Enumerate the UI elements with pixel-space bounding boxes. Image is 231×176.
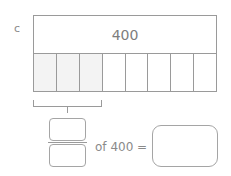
bracket-tick (67, 107, 68, 113)
answer-input[interactable] (152, 125, 218, 167)
equation-text: of 400 = (95, 140, 147, 154)
denominator-input[interactable] (49, 144, 86, 167)
bar-part (80, 54, 103, 91)
bar-part (126, 54, 149, 91)
numerator-input[interactable] (49, 118, 86, 141)
bar-part (34, 54, 57, 91)
bracket (33, 100, 102, 107)
fraction-line (48, 142, 87, 143)
bar-part (148, 54, 171, 91)
bar-part (103, 54, 126, 91)
bar-part (57, 54, 80, 91)
question-label: c (14, 22, 20, 35)
bar-whole: 400 (34, 16, 216, 54)
bar-parts (34, 54, 216, 91)
bar-model: 400 (33, 15, 217, 92)
bar-part (171, 54, 194, 91)
bar-part (194, 54, 216, 91)
